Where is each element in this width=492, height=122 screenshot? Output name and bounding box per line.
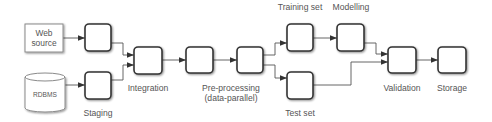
preprocessing-node-2 [237, 47, 263, 73]
label-validation: Validation [383, 83, 420, 93]
test-set-node [287, 72, 313, 99]
edge-staging-db-to-integration [111, 65, 134, 80]
web-source-node: Web source [25, 24, 63, 52]
web-source-label-line1: Web [35, 28, 52, 38]
label-modelling: Modelling [333, 2, 370, 12]
label-preprocessing-line2: (data-parallel) [204, 93, 257, 103]
label-integration: Integration [128, 83, 169, 93]
integration-node [134, 47, 162, 74]
edge-modelling-to-validation [364, 43, 388, 54]
staging-db-node [85, 72, 111, 99]
label-staging: Staging [83, 108, 112, 118]
pipeline-diagram: Web source RDBMS Staging Integration Pre… [0, 0, 492, 122]
label-storage: Storage [437, 83, 467, 93]
validation-node [388, 47, 416, 73]
storage-node [438, 47, 466, 73]
label-training-set: Training set [278, 2, 323, 12]
rdbms-database-node: RDBMS [25, 73, 65, 112]
label-preprocessing-line1: Pre-processing [202, 83, 260, 93]
database-label: RDBMS [33, 91, 57, 98]
training-set-node [287, 24, 313, 51]
edge-staging-web-to-integration [111, 43, 134, 55]
web-source-label-line2: source [31, 38, 56, 48]
staging-web-node [85, 24, 111, 51]
edge-preprocessing-to-test [263, 65, 287, 78]
preprocessing-node-1 [186, 47, 213, 73]
edge-preprocessing-to-training [263, 43, 287, 55]
label-test-set: Test set [285, 108, 315, 118]
modelling-node [337, 24, 364, 51]
edge-test-to-validation [313, 62, 388, 85]
